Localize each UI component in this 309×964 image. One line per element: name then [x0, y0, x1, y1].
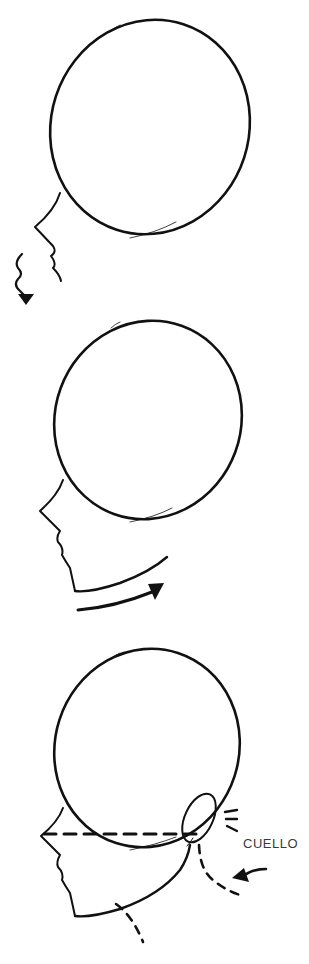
arrow-left-icon — [232, 868, 249, 882]
curved-arrow-shaft — [78, 592, 152, 610]
arrow-down-icon — [18, 294, 34, 305]
neck-label: CUELLO — [243, 836, 298, 851]
panel-step-2 — [26, 294, 269, 610]
head-circle — [22, 0, 277, 260]
panel-step-3 — [29, 624, 266, 942]
panel-step-1 — [16, 0, 278, 305]
face-profile-line — [35, 193, 61, 281]
emphasis-marks-icon — [225, 810, 237, 831]
face-profile-line — [41, 808, 75, 916]
drawing-canvas — [0, 0, 309, 964]
face-profile-line — [40, 480, 75, 591]
neck-back-dashed-line — [199, 845, 240, 895]
head-circle — [26, 294, 269, 546]
wavy-arrow-shaft — [16, 254, 25, 296]
jaw-line — [75, 845, 190, 916]
